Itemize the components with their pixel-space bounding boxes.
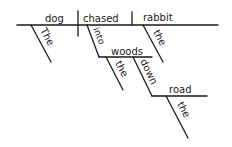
object-word: rabbit (143, 12, 173, 23)
verb-word: chased (83, 13, 119, 24)
preposition-2-article-word: the (175, 100, 192, 120)
preposition-2-object-word: road (169, 84, 192, 95)
sentence-diagram: dog chased rabbit The the into woods the… (0, 0, 232, 147)
preposition-1-object-word: woods (111, 46, 143, 57)
preposition-2-word: down (138, 57, 160, 86)
subject-word: dog (45, 13, 64, 24)
